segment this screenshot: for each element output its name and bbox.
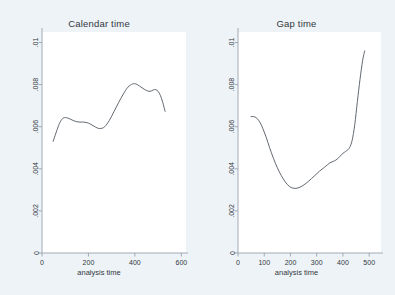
chart-panel-gap-time: Gap time 0.002.004.006.008.0101002003004… bbox=[198, 0, 395, 295]
y-tick-label-gap-time-5: .01 bbox=[229, 38, 236, 48]
y-tick-label-gap-time-0: 0 bbox=[229, 251, 236, 255]
chart-panel-calendar-time: Calendar time 0.002.004.006.008.01020040… bbox=[0, 0, 198, 295]
x-tick-label-gap-time-3: 300 bbox=[311, 259, 323, 266]
plot-area-calendar-time: 0.002.004.006.008.010200400600 bbox=[0, 0, 198, 295]
y-tick-label-gap-time-1: .002 bbox=[229, 204, 236, 218]
y-tick-label-calendar-time-4: .008 bbox=[33, 78, 40, 92]
x-tick-label-gap-time-1: 100 bbox=[258, 259, 270, 266]
y-tick-label-calendar-time-5: .01 bbox=[33, 38, 40, 48]
x-tick-label-gap-time-4: 400 bbox=[337, 259, 349, 266]
figure-canvas: Calendar time 0.002.004.006.008.01020040… bbox=[0, 0, 395, 295]
x-tick-label-calendar-time-3: 600 bbox=[176, 259, 188, 266]
y-tick-label-calendar-time-2: .004 bbox=[33, 162, 40, 176]
x-tick-label-calendar-time-2: 400 bbox=[129, 259, 141, 266]
x-axis-label-gap-time: analysis time bbox=[198, 268, 395, 277]
x-tick-label-calendar-time-1: 200 bbox=[83, 259, 95, 266]
x-axis-label-calendar-time: analysis time bbox=[0, 268, 198, 277]
plot-area-gap-time: 0.002.004.006.008.010100200300400500 bbox=[198, 0, 395, 295]
y-tick-label-gap-time-4: .008 bbox=[229, 78, 236, 92]
x-tick-label-calendar-time-0: 0 bbox=[40, 259, 44, 266]
y-tick-label-calendar-time-3: .006 bbox=[33, 120, 40, 134]
y-tick-label-gap-time-2: .004 bbox=[229, 162, 236, 176]
y-tick-label-calendar-time-0: 0 bbox=[33, 251, 40, 255]
y-tick-label-calendar-time-1: .002 bbox=[33, 204, 40, 218]
x-tick-label-gap-time-0: 0 bbox=[236, 259, 240, 266]
y-tick-label-gap-time-3: .006 bbox=[229, 120, 236, 134]
x-tick-label-gap-time-2: 200 bbox=[285, 259, 297, 266]
x-tick-label-gap-time-5: 500 bbox=[363, 259, 375, 266]
